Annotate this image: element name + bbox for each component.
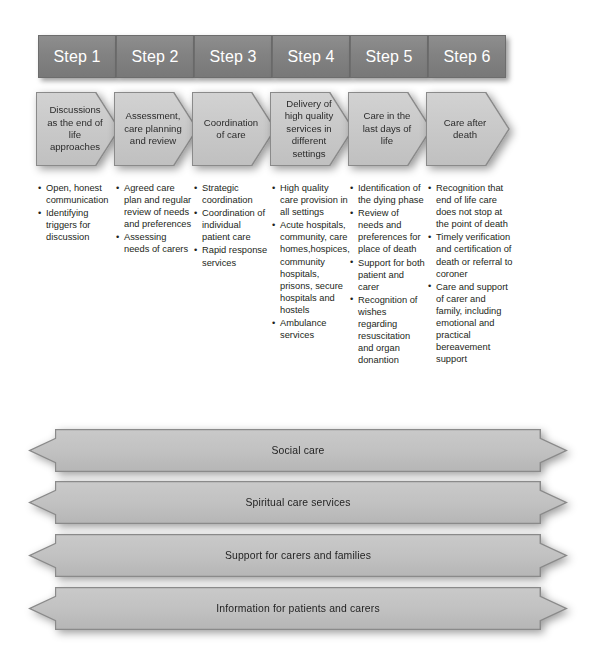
list-item: Recognition of wishes regarding resuscit…: [350, 294, 426, 367]
list-item: Open, honest communication: [38, 182, 114, 206]
list-item: Agreed care plan and regular review of n…: [116, 182, 192, 230]
bullet-column-1: Open, honest communication Identifying t…: [38, 182, 114, 244]
stage-label: Care in the last days of life: [356, 110, 424, 147]
list-item: Review of needs and preferences for plac…: [350, 207, 426, 255]
list-item: Assessing needs of carers: [116, 231, 192, 255]
bullet-list: Open, honest communication Identifying t…: [38, 182, 114, 243]
bullet-column-4: High quality care provision in all setti…: [272, 182, 348, 342]
diagram-canvas: Step 1 Step 2 Step 3 Step 4 Step 5 Step …: [0, 0, 605, 659]
list-item: Identifying triggers for discussion: [38, 207, 114, 243]
stage-chevron-2: Assessment, care planning and review: [114, 92, 198, 166]
stage-label: Coordination of care: [200, 117, 268, 142]
list-item: Acute hospitals, community, care homes,h…: [272, 219, 348, 316]
step-header-label: Step 5: [366, 48, 413, 66]
figure-caption: [0, 651, 605, 659]
cross-cutting-arrow-social-care: Social care: [28, 429, 568, 472]
step-header-label: Step 1: [54, 48, 101, 66]
step-header-6: Step 6: [428, 35, 506, 78]
bullet-list: Recognition that end of life care does n…: [428, 182, 514, 365]
list-item: Recognition that end of life care does n…: [428, 182, 514, 230]
stage-label: Delivery of high quality services in dif…: [278, 98, 346, 160]
arrow-label: Support for carers and families: [28, 534, 568, 577]
list-item: Strategic coordination: [194, 182, 270, 206]
step-header-1: Step 1: [38, 35, 116, 78]
step-header-3: Step 3: [194, 35, 272, 78]
stage-label: Discussions as the end of life approache…: [44, 104, 112, 154]
cross-cutting-arrow-spiritual-care-services: Spiritual care services: [28, 481, 568, 524]
bullet-column-2: Agreed care plan and regular review of n…: [116, 182, 192, 257]
cross-cutting-arrow-support-for-carers-and-families: Support for carers and families: [28, 534, 568, 577]
list-item: Coordination of individual patient care: [194, 207, 270, 243]
stage-label: Care after death: [434, 117, 502, 142]
arrow-label: Information for patients and carers: [28, 587, 568, 630]
step-header-4: Step 4: [272, 35, 350, 78]
arrow-label: Social care: [28, 429, 568, 472]
bullet-list: Identification of the dying phase Review…: [350, 182, 426, 366]
list-item: Support for both patient and carer: [350, 257, 426, 293]
step-header-label: Step 6: [444, 48, 491, 66]
list-item: Identification of the dying phase: [350, 182, 426, 206]
stage-chevron-3: Coordination of care: [192, 92, 276, 166]
step-header-label: Step 4: [288, 48, 335, 66]
list-item: Care and support of carer and family, in…: [428, 281, 514, 366]
arrow-label: Spiritual care services: [28, 481, 568, 524]
stage-label: Assessment, care planning and review: [122, 110, 190, 147]
stage-chevron-6: Care after death: [426, 92, 510, 166]
list-item: Rapid response services: [194, 244, 270, 268]
bullet-column-6: Recognition that end of life care does n…: [428, 182, 514, 366]
bullet-list: Agreed care plan and regular review of n…: [116, 182, 192, 256]
list-item: Ambulance services: [272, 317, 348, 341]
list-item: High quality care provision in all setti…: [272, 182, 348, 218]
step-header-label: Step 2: [132, 48, 179, 66]
stage-chevron-1: Discussions as the end of life approache…: [36, 92, 120, 166]
bullet-column-3: Strategic coordination Coordination of i…: [194, 182, 270, 270]
bullet-column-5: Identification of the dying phase Review…: [350, 182, 426, 367]
list-item: Timely verification and certification of…: [428, 231, 514, 279]
step-header-2: Step 2: [116, 35, 194, 78]
step-header-5: Step 5: [350, 35, 428, 78]
cross-cutting-arrow-information-for-patients-and-carers: Information for patients and carers: [28, 587, 568, 630]
bullet-list: High quality care provision in all setti…: [272, 182, 348, 341]
stage-chevron-5: Care in the last days of life: [348, 92, 432, 166]
step-header-label: Step 3: [210, 48, 257, 66]
stage-chevron-4: Delivery of high quality services in dif…: [270, 92, 354, 166]
bullet-list: Strategic coordination Coordination of i…: [194, 182, 270, 269]
